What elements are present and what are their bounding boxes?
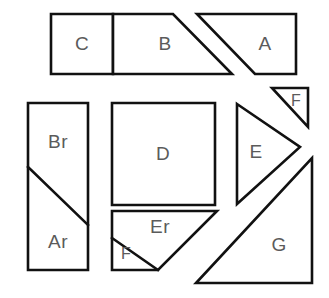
piece-label-d: D: [156, 143, 170, 164]
piece-label-er: Er: [150, 216, 170, 237]
piece-label-g: G: [271, 234, 286, 255]
piece-label-br: Br: [48, 131, 68, 152]
piece-label-e: E: [249, 141, 262, 162]
piece-label-ar: Ar: [48, 231, 68, 252]
diagram-canvas: C B A F D Er E G Br Ar F: [0, 0, 329, 298]
piece-label-b: B: [158, 33, 171, 54]
shape-layout-diagram: C B A F D Er E G Br Ar F: [0, 0, 329, 298]
piece-label-f-bottom: F: [121, 245, 131, 262]
piece-label-c: C: [75, 33, 89, 54]
piece-label-a: A: [258, 33, 271, 54]
piece-label-f-top: F: [291, 92, 301, 109]
